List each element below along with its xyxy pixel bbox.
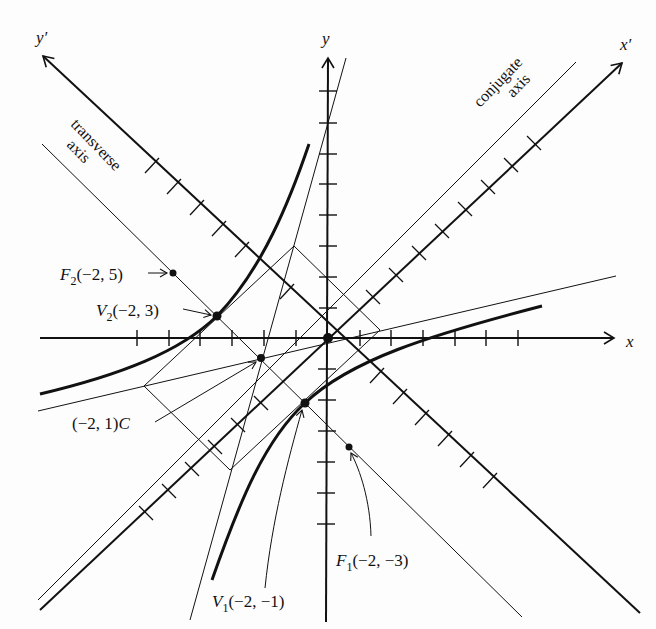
V2-label: V2(−2, 3) [96, 301, 159, 324]
y-prime-axis [43, 56, 640, 613]
diagram-canvas: x y x′ y′ transverse axis conjugate axis… [0, 0, 656, 629]
origin-point [323, 333, 333, 343]
V1-label: V1(−2, −1) [212, 592, 284, 615]
x-prime-axis-label: x′ [619, 35, 632, 54]
point-V2 [213, 312, 222, 321]
hyperbola-lower-branch [212, 306, 542, 580]
transverse-axis-label: transverse axis [56, 115, 126, 185]
point-F2 [170, 270, 177, 277]
point-C [257, 354, 265, 362]
V1-pointer [265, 410, 302, 588]
hyperbola-diagram: x y x′ y′ transverse axis conjugate axis… [0, 0, 656, 629]
y-axis-label: y [320, 29, 330, 48]
y-prime-axis-label: y′ [34, 28, 48, 47]
x-axis-label: x [625, 332, 634, 351]
conjugate-axis-label: conjugate axis [470, 54, 538, 122]
C-pointer [155, 362, 256, 422]
conjugate-axis-line [38, 62, 576, 600]
F1-label: F1(−2, −3) [335, 551, 408, 574]
V2-pointer [183, 309, 211, 315]
C-label: (−2, 1)C [72, 414, 130, 433]
point-V1 [301, 399, 310, 408]
F2-label: F2(−2, 5) [59, 265, 123, 288]
point-F1 [346, 444, 353, 451]
